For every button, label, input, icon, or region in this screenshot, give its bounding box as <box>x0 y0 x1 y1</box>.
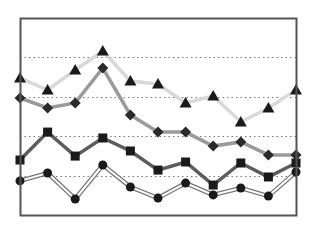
square-marker <box>181 158 190 167</box>
square-marker <box>71 152 80 161</box>
diamond-marker <box>235 136 246 147</box>
line-chart <box>0 0 317 230</box>
circle-marker <box>181 179 190 188</box>
square-marker <box>209 181 218 190</box>
chart-plot-area <box>0 0 317 230</box>
triangle-marker <box>97 45 109 56</box>
circle-marker <box>154 194 163 203</box>
circle-marker <box>264 192 273 201</box>
square-marker <box>264 172 273 181</box>
diamond-marker <box>42 103 53 114</box>
circle-marker <box>43 169 52 178</box>
circle-marker <box>209 190 218 199</box>
square-marker <box>236 158 245 167</box>
circle-marker <box>71 195 80 204</box>
circle-marker <box>236 184 245 193</box>
series-line <box>20 132 296 185</box>
square-marker <box>126 146 135 155</box>
diamond-marker <box>263 149 274 160</box>
circle-marker <box>98 160 107 169</box>
square-marker <box>98 133 107 142</box>
series-lines <box>14 45 302 203</box>
square-marker <box>43 128 52 137</box>
square-marker <box>154 166 163 175</box>
circle-marker <box>126 183 135 192</box>
gridlines <box>20 58 296 177</box>
